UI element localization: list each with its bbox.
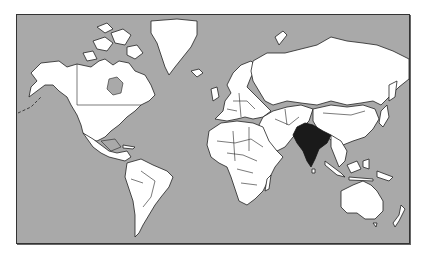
new-zealand	[393, 205, 405, 227]
north-america	[29, 59, 155, 141]
russia	[251, 37, 409, 105]
greenland	[151, 19, 197, 75]
australia	[341, 181, 383, 219]
south-america	[125, 159, 173, 237]
world-map: World map with India highlighted	[16, 14, 410, 244]
map-canvas	[17, 15, 410, 244]
japan	[379, 105, 389, 127]
